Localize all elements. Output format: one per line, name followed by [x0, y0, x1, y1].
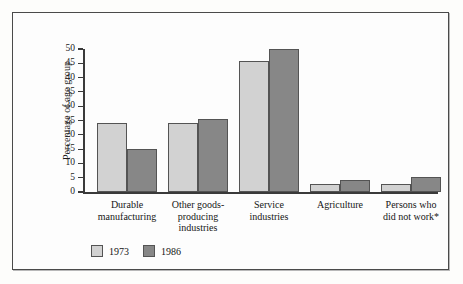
y-axis-tick-label: 20 — [59, 130, 75, 140]
bar-1986-3[interactable] — [340, 180, 370, 192]
x-axis-category-label: Persons whodid not work* — [361, 199, 461, 222]
y-axis-tick-label: 35 — [59, 87, 75, 97]
bar-1986-2[interactable] — [269, 49, 299, 192]
bar-1986-4[interactable] — [411, 177, 441, 192]
y-axis-tick-label: 5 — [59, 173, 75, 183]
bar-group — [97, 49, 157, 192]
legend-entry-1973[interactable]: 1973 — [91, 245, 129, 257]
chart-legend: 19731986 — [91, 245, 181, 257]
y-axis-tick-label: 25 — [59, 116, 75, 126]
bar-1986-0[interactable] — [127, 149, 157, 192]
bar-1973-1[interactable] — [168, 123, 198, 192]
legend-swatch-icon — [143, 245, 155, 257]
x-axis-label-line: did not work* — [361, 211, 461, 223]
legend-label: 1973 — [109, 246, 129, 257]
bar-group — [239, 49, 299, 192]
bar-1973-4[interactable] — [381, 184, 411, 192]
chart-frame-border: Percentage of age group 0510152025303540… — [12, 12, 449, 270]
legend-swatch-icon — [91, 245, 103, 257]
bar-group — [168, 49, 228, 192]
y-axis-tick-label: 30 — [59, 101, 75, 111]
y-axis-tick-label: 50 — [59, 44, 75, 54]
legend-label: 1986 — [161, 246, 181, 257]
y-axis-tick-label: 10 — [59, 158, 75, 168]
x-axis-label-line: Persons who — [361, 199, 461, 211]
x-axis-label-line: industries — [219, 211, 319, 223]
bar-1973-0[interactable] — [97, 123, 127, 192]
y-axis-tick-label: 15 — [59, 144, 75, 154]
plot-area — [83, 49, 438, 192]
bar-1986-1[interactable] — [198, 119, 228, 192]
bar-1973-3[interactable] — [310, 184, 340, 192]
y-axis-tick-label: 45 — [59, 58, 75, 68]
bar-group — [381, 49, 441, 192]
bar-group — [310, 49, 370, 192]
legend-entry-1986[interactable]: 1986 — [143, 245, 181, 257]
x-axis-label-line: industries — [148, 222, 248, 234]
y-axis-tick-label: 40 — [59, 73, 75, 83]
chart-page: Percentage of age group 0510152025303540… — [0, 0, 463, 284]
y-axis-tick-label: 0 — [59, 187, 75, 197]
bar-1973-2[interactable] — [239, 61, 269, 192]
x-axis-line — [83, 192, 438, 194]
